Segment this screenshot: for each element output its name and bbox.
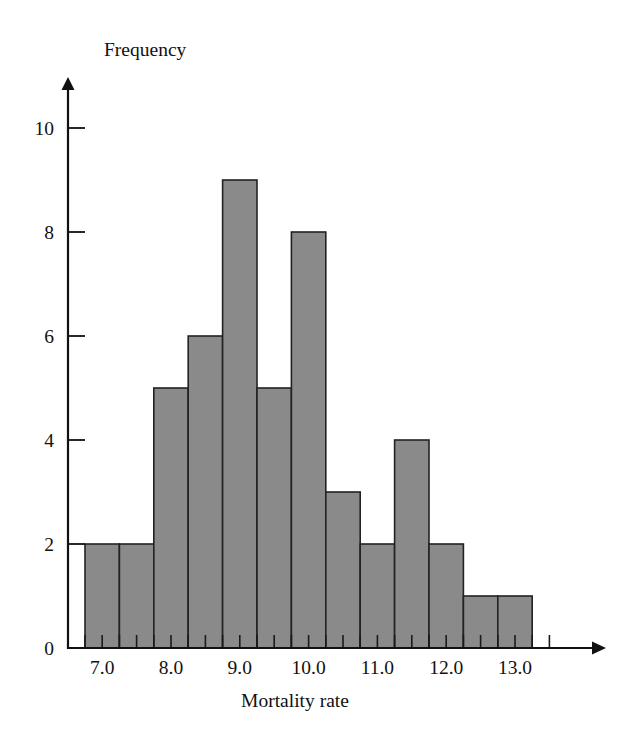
histogram-bar <box>119 544 153 648</box>
y-axis-ticks: 0246810 <box>35 118 86 659</box>
y-tick-label: 6 <box>44 326 54 347</box>
x-tick-label: 10.0 <box>292 657 326 678</box>
x-tick-label: 9.0 <box>228 657 252 678</box>
histogram-bar <box>223 180 257 648</box>
x-axis-tick-labels: 7.08.09.010.011.012.013.0 <box>90 657 532 678</box>
y-axis-title: Frequency <box>104 39 187 60</box>
histogram-bar <box>257 388 291 648</box>
x-tick-label: 12.0 <box>429 657 463 678</box>
y-tick-label: 2 <box>44 534 54 555</box>
x-axis-arrowhead <box>592 642 606 655</box>
x-tick-label: 7.0 <box>90 657 114 678</box>
mortality-rate-histogram: 02468107.08.09.010.011.012.013.0Frequenc… <box>0 0 630 739</box>
x-axis-title: Mortality rate <box>241 690 349 711</box>
histogram-bar <box>429 544 463 648</box>
y-tick-label: 4 <box>44 430 54 451</box>
histogram-bar <box>291 232 325 648</box>
histogram-bar <box>326 492 360 648</box>
y-tick-label: 8 <box>44 222 54 243</box>
histogram-bar <box>85 544 119 648</box>
histogram-bar <box>395 440 429 648</box>
y-axis-arrowhead <box>62 77 75 90</box>
histogram-bar <box>154 388 188 648</box>
histogram-bar <box>360 544 394 648</box>
y-tick-label: 10 <box>35 118 55 139</box>
x-tick-label: 8.0 <box>159 657 183 678</box>
bars-group <box>85 180 532 648</box>
histogram-bar <box>188 336 222 648</box>
x-tick-label: 13.0 <box>498 657 532 678</box>
x-tick-label: 11.0 <box>361 657 394 678</box>
histogram-figure: 02468107.08.09.010.011.012.013.0Frequenc… <box>0 0 630 739</box>
y-tick-label: 0 <box>44 638 54 659</box>
